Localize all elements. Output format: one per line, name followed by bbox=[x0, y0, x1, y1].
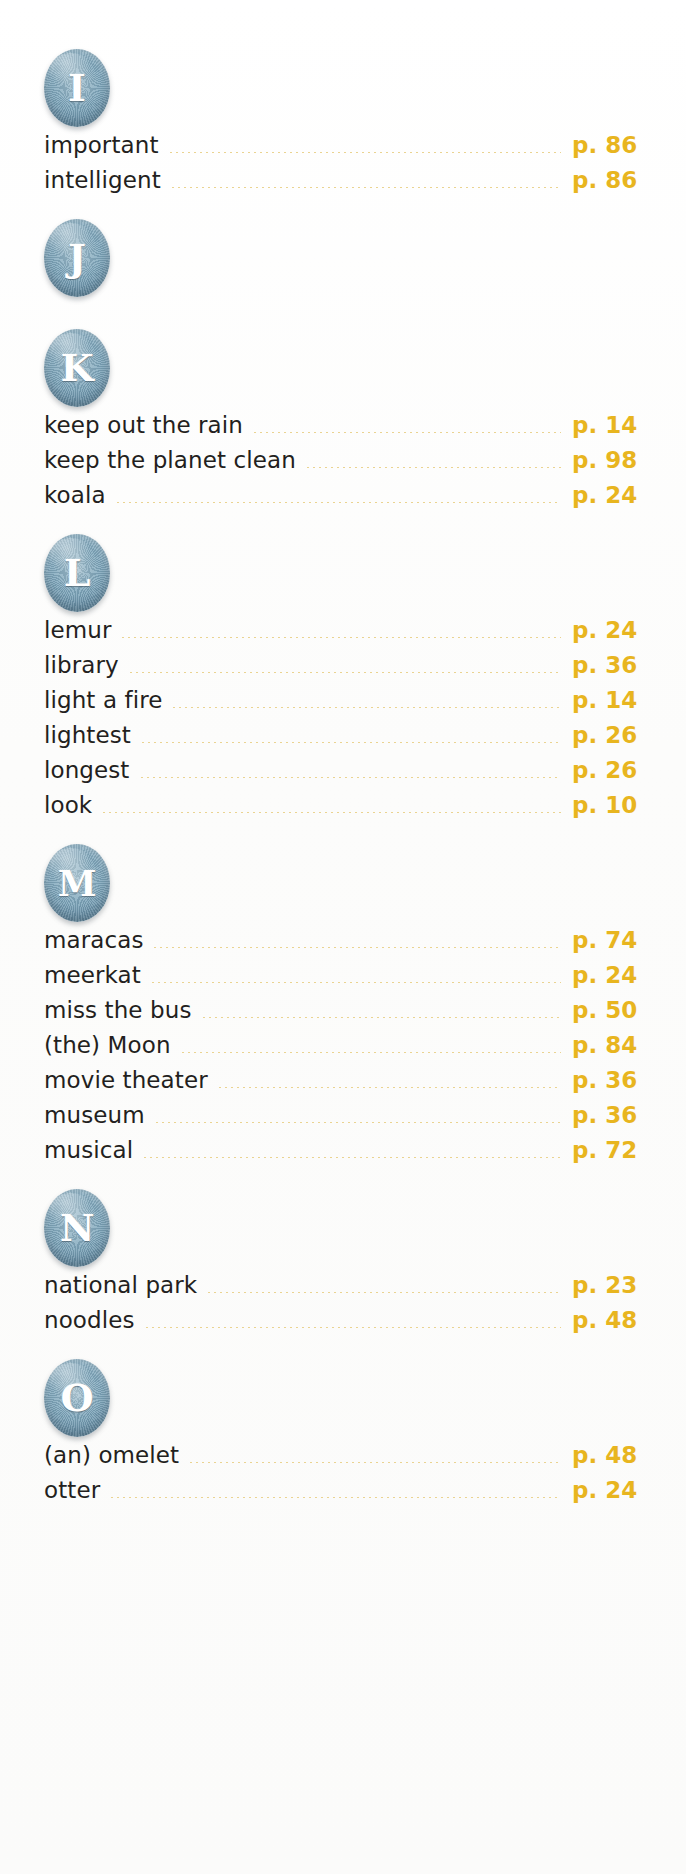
index-entry[interactable]: national parkp. 23 bbox=[44, 1272, 646, 1307]
letter-badge-glyph: O bbox=[60, 1379, 93, 1417]
entry-page-reference: p. 14 bbox=[561, 412, 646, 438]
letter-badge-glyph: L bbox=[64, 554, 91, 592]
index-section-l: Llemurp. 24libraryp. 36light a firep. 14… bbox=[42, 531, 646, 827]
letter-badge-i: I bbox=[44, 49, 110, 127]
entry-word: musical bbox=[44, 1137, 142, 1163]
entry-word: light a fire bbox=[44, 687, 171, 713]
entry-page-reference: p. 23 bbox=[561, 1272, 646, 1298]
letter-badge-row: N bbox=[42, 1186, 646, 1270]
entry-page-reference: p. 50 bbox=[561, 997, 646, 1023]
letter-badge-row: O bbox=[42, 1356, 646, 1440]
index-section-m: Mmaracasp. 74meerkatp. 24miss the busp. … bbox=[42, 841, 646, 1172]
index-entry[interactable]: miss the busp. 50 bbox=[44, 997, 646, 1032]
index-entry[interactable]: light a firep. 14 bbox=[44, 687, 646, 722]
index-entry[interactable]: intelligentp. 86 bbox=[44, 167, 646, 202]
entry-list: keep out the rainp. 14keep the planet cl… bbox=[42, 412, 646, 517]
dotted-leader bbox=[139, 777, 562, 778]
entry-page-reference: p. 24 bbox=[561, 1477, 646, 1503]
entry-word: koala bbox=[44, 482, 115, 508]
entry-list: lemurp. 24libraryp. 36light a firep. 14l… bbox=[42, 617, 646, 827]
letter-badge-l: L bbox=[44, 534, 110, 612]
index-entry[interactable]: noodlesp. 48 bbox=[44, 1307, 646, 1342]
entry-list: maracasp. 74meerkatp. 24miss the busp. 5… bbox=[42, 927, 646, 1172]
entry-word: lemur bbox=[44, 617, 120, 643]
section-spacer bbox=[42, 312, 646, 326]
section-spacer bbox=[42, 1342, 646, 1356]
index-entry[interactable]: (the) Moonp. 84 bbox=[44, 1032, 646, 1067]
letter-badge-row: I bbox=[42, 46, 646, 130]
dotted-leader bbox=[168, 152, 561, 153]
letter-badge-glyph: N bbox=[60, 1209, 95, 1247]
index-entry[interactable]: museump. 36 bbox=[44, 1102, 646, 1137]
entry-list: national parkp. 23noodlesp. 48 bbox=[42, 1272, 646, 1342]
index-section-j: J bbox=[42, 216, 646, 312]
index-entry[interactable]: otterp. 24 bbox=[44, 1477, 646, 1512]
index-entry[interactable]: keep the planet cleanp. 98 bbox=[44, 447, 646, 482]
index-entry[interactable]: libraryp. 36 bbox=[44, 652, 646, 687]
index-section-k: Kkeep out the rainp. 14keep the planet c… bbox=[42, 326, 646, 517]
letter-badge-row: L bbox=[42, 531, 646, 615]
entry-word: national park bbox=[44, 1272, 206, 1298]
entry-page-reference: p. 24 bbox=[561, 482, 646, 508]
index-section-n: Nnational parkp. 23noodlesp. 48 bbox=[42, 1186, 646, 1342]
index-entry[interactable]: longestp. 26 bbox=[44, 757, 646, 792]
section-spacer bbox=[42, 1172, 646, 1186]
entry-word: meerkat bbox=[44, 962, 150, 988]
entry-word: noodles bbox=[44, 1307, 144, 1333]
index-entry[interactable]: keep out the rainp. 14 bbox=[44, 412, 646, 447]
entry-page-reference: p. 10 bbox=[561, 792, 646, 818]
index-entry[interactable]: lemurp. 24 bbox=[44, 617, 646, 652]
index-entry[interactable]: koalap. 24 bbox=[44, 482, 646, 517]
dotted-leader bbox=[252, 432, 561, 433]
entry-page-reference: p. 84 bbox=[561, 1032, 646, 1058]
entry-page-reference: p. 36 bbox=[561, 1067, 646, 1093]
entry-page-reference: p. 86 bbox=[561, 132, 646, 158]
letter-badge-n: N bbox=[44, 1189, 110, 1267]
entry-page-reference: p. 72 bbox=[561, 1137, 646, 1163]
letter-badge-row: M bbox=[42, 841, 646, 925]
entry-page-reference: p. 26 bbox=[561, 722, 646, 748]
section-spacer bbox=[42, 202, 646, 216]
dotted-leader bbox=[109, 1497, 561, 1498]
entry-word: keep out the rain bbox=[44, 412, 252, 438]
entry-page-reference: p. 36 bbox=[561, 652, 646, 678]
entry-word: longest bbox=[44, 757, 139, 783]
entry-list: (an) omeletp. 48otterp. 24 bbox=[42, 1442, 646, 1512]
dotted-leader bbox=[188, 1462, 561, 1463]
index-entry[interactable]: maracasp. 74 bbox=[44, 927, 646, 962]
dotted-leader bbox=[115, 502, 561, 503]
letter-badge-glyph: K bbox=[60, 349, 93, 387]
entry-word: movie theater bbox=[44, 1067, 217, 1093]
section-spacer bbox=[42, 1512, 646, 1526]
index-entry[interactable]: meerkatp. 24 bbox=[44, 962, 646, 997]
index-entry[interactable]: musicalp. 72 bbox=[44, 1137, 646, 1172]
entry-word: museum bbox=[44, 1102, 154, 1128]
index-entry[interactable]: (an) omeletp. 48 bbox=[44, 1442, 646, 1477]
entry-page-reference: p. 26 bbox=[561, 757, 646, 783]
index-entry[interactable]: lookp. 10 bbox=[44, 792, 646, 827]
entry-page-reference: p. 48 bbox=[561, 1307, 646, 1333]
dotted-leader bbox=[217, 1087, 561, 1088]
dotted-leader bbox=[128, 672, 561, 673]
letter-badge-glyph: J bbox=[68, 239, 86, 277]
dotted-leader bbox=[120, 637, 561, 638]
letter-badge-o: O bbox=[44, 1359, 110, 1437]
entry-word: library bbox=[44, 652, 128, 678]
empty-section-spacer bbox=[44, 302, 646, 312]
letter-badge-glyph: M bbox=[58, 866, 97, 901]
dotted-leader bbox=[206, 1292, 561, 1293]
entry-page-reference: p. 98 bbox=[561, 447, 646, 473]
index-section-o: O(an) omeletp. 48otterp. 24 bbox=[42, 1356, 646, 1512]
dotted-leader bbox=[180, 1052, 561, 1053]
index-sections-container: Iimportantp. 86intelligentp. 86JKkeep ou… bbox=[0, 0, 686, 1526]
entry-word: lightest bbox=[44, 722, 140, 748]
letter-badge-row: J bbox=[42, 216, 646, 300]
dotted-leader bbox=[142, 1157, 561, 1158]
entry-word: otter bbox=[44, 1477, 109, 1503]
index-entry[interactable]: importantp. 86 bbox=[44, 132, 646, 167]
index-entry[interactable]: movie theaterp. 36 bbox=[44, 1067, 646, 1102]
entry-word: keep the planet clean bbox=[44, 447, 305, 473]
index-section-i: Iimportantp. 86intelligentp. 86 bbox=[42, 46, 646, 202]
index-entry[interactable]: lightestp. 26 bbox=[44, 722, 646, 757]
dotted-leader bbox=[144, 1327, 561, 1328]
